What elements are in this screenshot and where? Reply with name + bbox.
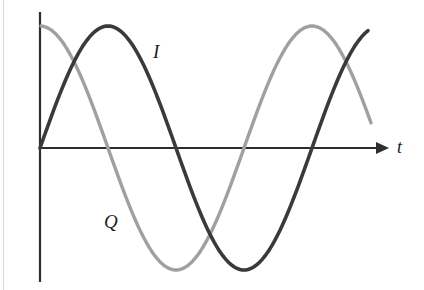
x-axis-label: t [397,138,402,156]
series-label-i: I [153,42,159,61]
waveform-plot-svg [0,0,424,290]
series-label-q: Q [104,212,118,231]
iq-waveform-figure: I Q t [0,0,424,290]
x-axis-arrow-icon [376,142,389,154]
